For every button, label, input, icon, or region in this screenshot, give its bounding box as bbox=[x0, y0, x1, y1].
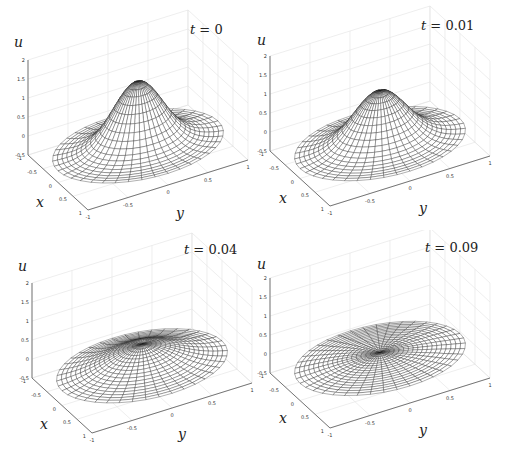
svg-text:0: 0 bbox=[166, 189, 169, 195]
z-axis-label: u bbox=[257, 32, 266, 48]
y-axis-label: y bbox=[176, 205, 184, 221]
title-value: = 0 bbox=[195, 22, 222, 37]
svg-text:0.5: 0.5 bbox=[259, 332, 267, 338]
z-axis-label: u bbox=[257, 256, 266, 272]
svg-text:-0.5: -0.5 bbox=[127, 425, 137, 431]
svg-text:1: 1 bbox=[79, 210, 82, 216]
svg-text:1: 1 bbox=[488, 382, 491, 388]
svg-text:-0.5: -0.5 bbox=[27, 169, 37, 175]
title-value: = 0.09 bbox=[430, 240, 478, 255]
surface-plot-t001: -0.500.511.52-1-0.500.51-1-0.500.51 t = … bbox=[253, 0, 507, 230]
svg-text:1: 1 bbox=[246, 164, 249, 170]
svg-text:0.5: 0.5 bbox=[301, 192, 309, 198]
svg-text:-1: -1 bbox=[90, 437, 95, 443]
svg-text:0: 0 bbox=[264, 351, 267, 357]
x-axis-label: x bbox=[279, 410, 287, 426]
svg-text:1: 1 bbox=[26, 318, 29, 324]
svg-text:-0.5: -0.5 bbox=[123, 202, 133, 208]
svg-text:2: 2 bbox=[264, 53, 267, 59]
svg-text:0: 0 bbox=[291, 179, 294, 185]
y-axis-label: y bbox=[419, 200, 427, 216]
plot-canvas: -0.500.511.52-1-0.500.51-1-0.500.51 bbox=[253, 0, 507, 230]
z-axis-label: u bbox=[14, 34, 23, 50]
svg-text:1.5: 1.5 bbox=[259, 72, 267, 78]
svg-text:-1: -1 bbox=[328, 210, 333, 216]
svg-text:0: 0 bbox=[26, 356, 29, 362]
svg-text:-0.5: -0.5 bbox=[269, 165, 279, 171]
svg-text:1: 1 bbox=[321, 206, 324, 212]
wireframe-surface bbox=[57, 329, 228, 403]
svg-text:1: 1 bbox=[83, 433, 86, 439]
svg-text:-1: -1 bbox=[328, 432, 333, 438]
x-axis-label: x bbox=[40, 416, 48, 432]
svg-text:0.5: 0.5 bbox=[204, 177, 212, 183]
svg-text:1.5: 1.5 bbox=[17, 76, 25, 82]
svg-text:1: 1 bbox=[264, 313, 267, 319]
plot-title: t = 0.09 bbox=[425, 240, 478, 255]
x-axis-label: x bbox=[36, 194, 44, 210]
svg-text:1: 1 bbox=[264, 91, 267, 97]
svg-text:0: 0 bbox=[291, 401, 294, 407]
svg-text:-0.5: -0.5 bbox=[365, 198, 375, 204]
svg-text:-1: -1 bbox=[259, 151, 264, 157]
svg-text:0.5: 0.5 bbox=[446, 395, 454, 401]
surface-plot-t004: -0.500.511.52-1-0.500.51-1-0.500.51 t = … bbox=[0, 230, 254, 460]
svg-text:1: 1 bbox=[488, 160, 491, 166]
title-value: = 0.04 bbox=[189, 242, 237, 257]
svg-text:1: 1 bbox=[22, 95, 25, 101]
svg-text:2: 2 bbox=[26, 280, 29, 286]
svg-text:0.5: 0.5 bbox=[17, 114, 25, 120]
z-axis-label: u bbox=[18, 258, 27, 274]
surface-plot-t0: -0.500.511.52-1-0.500.51-1-0.500.51 t = … bbox=[0, 0, 254, 230]
plot-canvas: -0.500.511.52-1-0.500.51-1-0.500.51 bbox=[0, 230, 254, 460]
svg-text:0: 0 bbox=[22, 133, 25, 139]
wireframe-surface bbox=[295, 90, 466, 181]
y-axis-label: y bbox=[419, 422, 427, 438]
svg-text:-1: -1 bbox=[259, 373, 264, 379]
svg-text:0.5: 0.5 bbox=[21, 337, 29, 343]
y-axis-label: y bbox=[178, 426, 186, 442]
svg-text:0.5: 0.5 bbox=[259, 110, 267, 116]
wireframe-surface bbox=[295, 321, 466, 395]
svg-text:1.5: 1.5 bbox=[21, 299, 29, 305]
svg-text:-0.5: -0.5 bbox=[31, 392, 41, 398]
svg-text:0.5: 0.5 bbox=[63, 419, 71, 425]
svg-text:0: 0 bbox=[170, 412, 173, 418]
svg-text:2: 2 bbox=[22, 57, 25, 63]
wireframe-surface bbox=[53, 81, 224, 183]
svg-text:0: 0 bbox=[264, 129, 267, 135]
svg-text:2: 2 bbox=[264, 275, 267, 281]
x-axis-label: x bbox=[279, 190, 287, 206]
svg-text:-1: -1 bbox=[21, 378, 26, 384]
plot-canvas: -0.500.511.52-1-0.500.51-1-0.500.51 bbox=[253, 230, 507, 460]
plot-title: t = 0 bbox=[190, 22, 223, 37]
svg-text:0: 0 bbox=[53, 406, 56, 412]
svg-text:0: 0 bbox=[408, 185, 411, 191]
svg-text:0: 0 bbox=[49, 183, 52, 189]
svg-text:0.5: 0.5 bbox=[59, 196, 67, 202]
svg-text:0.5: 0.5 bbox=[301, 414, 309, 420]
svg-text:1: 1 bbox=[321, 428, 324, 434]
svg-text:0.5: 0.5 bbox=[446, 173, 454, 179]
surface-plot-t009: -0.500.511.52-1-0.500.51-1-0.500.51 t = … bbox=[253, 230, 507, 460]
plot-title: t = 0.04 bbox=[184, 242, 237, 257]
svg-text:0: 0 bbox=[408, 407, 411, 413]
svg-text:-1: -1 bbox=[17, 155, 22, 161]
svg-text:-0.5: -0.5 bbox=[365, 420, 375, 426]
title-value: = 0.01 bbox=[426, 18, 474, 33]
svg-text:-0.5: -0.5 bbox=[269, 387, 279, 393]
plot-title: t = 0.01 bbox=[421, 18, 474, 33]
svg-text:0.5: 0.5 bbox=[208, 400, 216, 406]
svg-text:1.5: 1.5 bbox=[259, 294, 267, 300]
svg-text:-1: -1 bbox=[86, 214, 91, 220]
